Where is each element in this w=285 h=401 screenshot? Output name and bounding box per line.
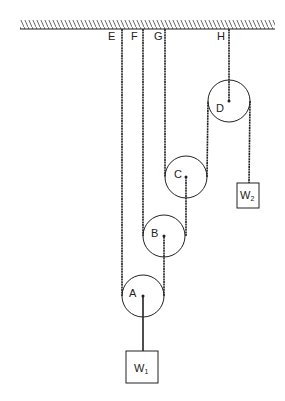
label-F: F xyxy=(131,30,138,42)
rope-D-to-W2 xyxy=(249,101,250,183)
pulley-diagram: E F G H A B C D W1 W2 xyxy=(0,0,285,401)
axle-dot xyxy=(185,176,188,179)
axle-dot xyxy=(142,295,145,298)
label-pulley-B: B xyxy=(151,227,158,239)
label-H: H xyxy=(217,30,225,42)
ceiling-hatching xyxy=(20,20,275,29)
label-G: G xyxy=(154,30,163,42)
rope-C-to-D xyxy=(207,101,208,177)
axle-dot xyxy=(163,235,166,238)
label-pulley-C: C xyxy=(174,168,182,180)
label-E: E xyxy=(108,30,115,42)
label-pulley-A: A xyxy=(129,287,137,299)
axle-dot xyxy=(228,100,231,103)
ceiling xyxy=(20,20,275,29)
ropes xyxy=(122,29,250,351)
label-pulley-D: D xyxy=(216,102,224,114)
